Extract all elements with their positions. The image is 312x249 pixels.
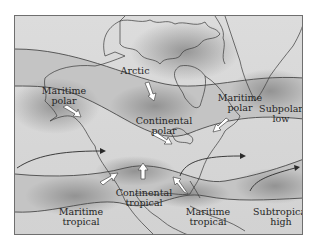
label-subtropical-high: Subtropical high [253,207,303,227]
label-maritime-polar-pacific: Maritime polar [42,86,86,106]
label-maritime-polar-atlantic: Maritime polar [218,93,262,113]
label-maritime-tropical-gulf: Maritime tropical [186,207,230,227]
label-continental-polar: Continental polar [136,116,192,136]
label-arctic: Arctic [121,66,150,76]
label-continental-tropical: Continental tropical [116,188,172,208]
air-mass-map: Arctic Maritime polar Continental polar … [14,15,303,235]
label-maritime-tropical-pacific: Maritime tropical [59,207,103,227]
label-subpolar-low: Subpolar low [259,104,303,124]
